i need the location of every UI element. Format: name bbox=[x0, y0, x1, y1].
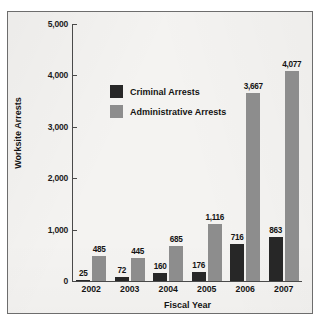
bar-value-label-admin-2005: 1,116 bbox=[200, 213, 230, 222]
y-axis-tick bbox=[72, 230, 77, 231]
y-axis-tick-label: 3,000 bbox=[28, 122, 68, 132]
bar-value-label-admin-2004: 685 bbox=[161, 235, 191, 244]
y-axis-tick bbox=[72, 178, 77, 179]
x-axis-tick-label-2003: 2003 bbox=[111, 284, 150, 294]
bar-criminal-2006 bbox=[230, 244, 244, 281]
y-axis-tick bbox=[72, 127, 77, 128]
x-axis-tick-label-2006: 2006 bbox=[226, 284, 265, 294]
chart-legend: Criminal ArrestsAdministrative Arrests bbox=[110, 85, 226, 125]
y-axis-tick bbox=[72, 75, 77, 76]
bar-admin-2007 bbox=[285, 71, 299, 281]
x-axis-title: Fiscal Year bbox=[72, 300, 303, 310]
bar-admin-2006 bbox=[246, 93, 260, 281]
bar-value-label-admin-2002: 485 bbox=[84, 245, 114, 254]
bar-criminal-2007 bbox=[269, 237, 283, 281]
y-axis-tick-label: 1,000 bbox=[28, 225, 68, 235]
bar-value-label-admin-2006: 3,667 bbox=[238, 82, 268, 91]
y-axis-tick-label: 5,000 bbox=[28, 19, 68, 29]
bar-admin-2004 bbox=[169, 246, 183, 281]
x-axis-tick-label-2002: 2002 bbox=[72, 284, 111, 294]
bar-value-label-admin-2007: 4,077 bbox=[277, 60, 307, 69]
y-axis-tick bbox=[72, 281, 77, 282]
chart-figure: 01,0002,0003,0004,0005,000 Worksite Arre… bbox=[0, 0, 325, 326]
legend-swatch-criminal bbox=[110, 85, 123, 98]
y-axis-line bbox=[72, 24, 73, 282]
y-axis-tick-label: 4,000 bbox=[28, 70, 68, 80]
bar-admin-2005 bbox=[208, 224, 222, 281]
legend-item-criminal: Criminal Arrests bbox=[110, 85, 226, 98]
legend-swatch-admin bbox=[110, 105, 123, 118]
y-axis-tick-label: 0 bbox=[28, 276, 68, 286]
x-axis-tick-label-2005: 2005 bbox=[188, 284, 227, 294]
bar-admin-2002 bbox=[92, 256, 106, 281]
bar-criminal-2004 bbox=[153, 273, 167, 281]
bar-criminal-2003 bbox=[115, 277, 129, 281]
y-axis-tick bbox=[72, 24, 77, 25]
legend-label-admin: Administrative Arrests bbox=[130, 107, 226, 117]
x-axis-tick-label-2004: 2004 bbox=[149, 284, 188, 294]
x-axis-tick-label-2007: 2007 bbox=[265, 284, 304, 294]
bar-criminal-2002 bbox=[76, 280, 90, 281]
bar-criminal-2005 bbox=[192, 272, 206, 281]
bar-admin-2003 bbox=[131, 258, 145, 281]
bar-value-label-admin-2003: 445 bbox=[123, 247, 153, 256]
y-axis-title: Worksite Arrests bbox=[13, 78, 23, 188]
y-axis-tick-label: 2,000 bbox=[28, 173, 68, 183]
legend-label-criminal: Criminal Arrests bbox=[130, 87, 200, 97]
x-axis-line bbox=[72, 281, 302, 282]
legend-item-admin: Administrative Arrests bbox=[110, 105, 226, 118]
